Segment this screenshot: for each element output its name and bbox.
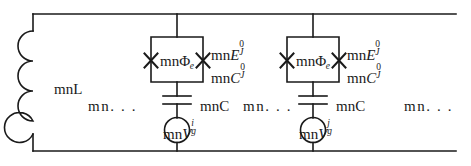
cell-j-flux-symbol: Φ	[315, 53, 326, 69]
cell-j-cj-subscript: J	[376, 71, 380, 81]
cell-i-source-symbol: V	[182, 126, 191, 142]
cell-j-source-prefix: mn	[299, 126, 318, 142]
inductor-label: mnL	[54, 82, 82, 97]
cell-i-flux-label: mnΦe	[160, 54, 194, 72]
cell-i-ej-prefix: mn	[211, 47, 230, 63]
cell-j-source-label: mnV j g	[299, 124, 334, 142]
cell-i-flux-prefix: mn	[160, 53, 179, 69]
cell-i-junction-cap-label: mnC 0 J	[211, 68, 247, 86]
cell-i-source-label: mnV i g	[163, 124, 198, 142]
cell-i-gate-cap-label: mnC	[200, 99, 229, 114]
cell-i-cj-prefix: mn	[211, 70, 230, 86]
cell-j-ej-subscript: J	[375, 48, 379, 58]
inductor-label-text: mnL	[54, 81, 82, 97]
cell-j-flux-label: mnΦe	[296, 54, 330, 72]
cell-i-gate-cap-text: mnC	[200, 98, 229, 114]
cell-i-ej-symbol: E	[230, 47, 239, 63]
ellipsis-right: mn. . .	[404, 99, 453, 114]
cell-j-source-indices: j g	[327, 124, 334, 139]
cell-j-junction-cap-label: mnC 0 J	[347, 68, 383, 86]
cell-j-ej-indices: 0 J	[375, 45, 382, 60]
cell-j-cj-indices: 0 J	[376, 68, 383, 83]
ellipsis-left: mn. . .	[88, 99, 137, 114]
cell-i-ej-indices: 0 J	[239, 45, 246, 60]
cell-i-cj-indices: 0 J	[240, 68, 247, 83]
cell-j-gate-cap-label: mnC	[336, 99, 365, 114]
cell-j-ej-symbol: E	[366, 47, 375, 63]
ellipsis-left-text: mn. . .	[88, 98, 137, 114]
cell-i-cj-subscript: J	[240, 71, 244, 81]
cell-j-cj-symbol: C	[366, 70, 376, 86]
cell-j-source-symbol: V	[318, 126, 327, 142]
cell-i-source-prefix: mn	[163, 126, 182, 142]
cell-i-source-indices: i g	[191, 124, 198, 139]
cell-j-flux-prefix: mn	[296, 53, 315, 69]
ellipsis-middle-text: mn. . .	[243, 98, 292, 114]
circuit-figure: mnL mn. . . mnΦe mnE 0 J mnC 0 J mnC mnV…	[0, 0, 471, 166]
cell-i-flux-symbol: Φ	[179, 53, 190, 69]
cell-j-cj-prefix: mn	[347, 70, 366, 86]
cell-i-ej-subscript: J	[239, 48, 243, 58]
cell-i-source-subscript: g	[191, 127, 196, 137]
ellipsis-middle: mn. . .	[243, 99, 292, 114]
cell-j-source-subscript: g	[327, 127, 332, 137]
cell-j-junction-energy-label: mnE 0 J	[347, 45, 382, 63]
inductor-coil	[4, 31, 33, 143]
cell-i-junction-energy-label: mnE 0 J	[211, 45, 246, 63]
cell-j-gate-cap-text: mnC	[336, 98, 365, 114]
cell-j-ej-prefix: mn	[347, 47, 366, 63]
cell-i-cj-symbol: C	[230, 70, 240, 86]
cell-i-flux-subscript: e	[190, 61, 194, 71]
cell-j-flux-subscript: e	[326, 61, 330, 71]
ellipsis-right-text: mn. . .	[404, 98, 453, 114]
